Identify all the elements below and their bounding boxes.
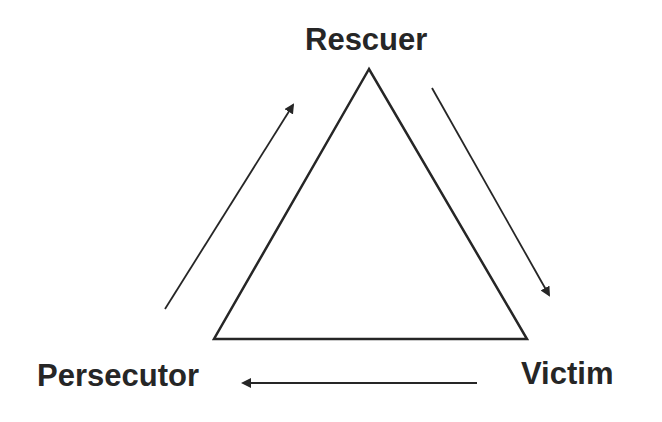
arrow-rescuer-to-victim bbox=[432, 88, 549, 295]
node-label-victim: Victim bbox=[521, 358, 613, 389]
node-label-persecutor: Persecutor bbox=[37, 360, 199, 391]
node-label-rescuer: Rescuer bbox=[305, 24, 427, 55]
drama-triangle-diagram: Rescuer Persecutor Victim bbox=[0, 0, 662, 422]
triangle-shape bbox=[214, 69, 527, 339]
arrow-persecutor-to-rescuer bbox=[165, 105, 293, 309]
